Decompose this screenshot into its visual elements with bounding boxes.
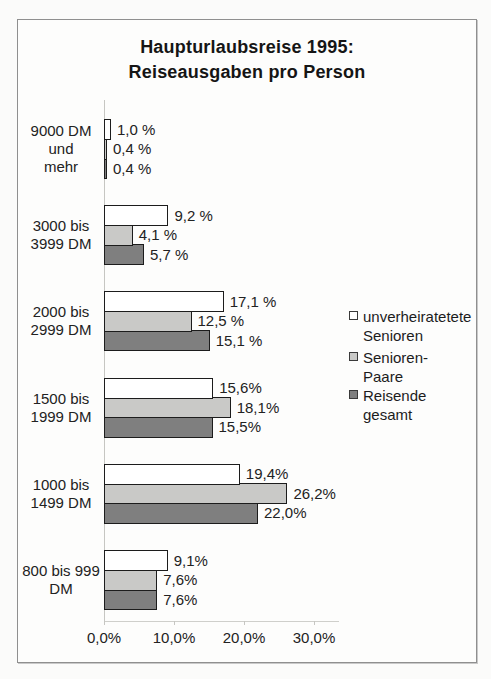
- category-label-line: 1000 bis: [20, 476, 102, 494]
- legend-item: unverheiratetete Senioren: [349, 307, 465, 345]
- bar-senioren-paare: [104, 483, 287, 504]
- bar-unverheiratete-senioren: [104, 464, 240, 485]
- x-axis-line: [104, 621, 339, 622]
- bar-reisende-gesamt: [104, 503, 258, 524]
- value-label: 19,4%: [246, 465, 289, 483]
- value-label: 18,1%: [237, 399, 280, 417]
- bar-reisende-gesamt: [104, 417, 213, 438]
- bar-unverheiratete-senioren: [104, 205, 168, 226]
- bar-senioren-paare: [104, 570, 157, 591]
- category-label: 1000 bis1499 DM: [20, 464, 102, 524]
- legend-item: Reisende gesamt: [349, 386, 465, 424]
- legend-item: Senioren-Paare: [349, 348, 465, 386]
- bar-unverheiratete-senioren: [104, 119, 111, 140]
- value-label: 15,6%: [219, 379, 262, 397]
- legend-label: Senioren-Paare: [363, 348, 465, 386]
- value-label: 5,7 %: [150, 246, 188, 264]
- legend-label: unverheiratetete Senioren: [363, 307, 465, 345]
- chart-frame: Haupturlaubsreise 1995: Reiseausgaben pr…: [17, 19, 477, 663]
- category-label-line: 2000 bis: [20, 303, 102, 321]
- value-label: 1,0 %: [117, 121, 155, 139]
- legend-swatch-icon: [349, 390, 358, 399]
- value-label: 0,4 %: [113, 160, 151, 178]
- category-label-line: 1499 DM: [20, 494, 102, 512]
- category-label-line: 2999 DM: [20, 321, 102, 339]
- bar-reisende-gesamt: [104, 589, 157, 610]
- category-label: 800 bis 999DM: [20, 550, 102, 610]
- bar-unverheiratete-senioren: [104, 550, 168, 571]
- category-label-line: 3000 bis: [20, 217, 102, 235]
- category-label-line: mehr: [20, 158, 102, 176]
- category-label-line: DM: [20, 580, 102, 598]
- x-tick-mark: [244, 621, 245, 625]
- category-label-line: 9000 DM und: [20, 122, 102, 158]
- category-label: 3000 bis3999 DM: [20, 205, 102, 265]
- category-label-line: 1999 DM: [20, 408, 102, 426]
- value-label: 12,5 %: [198, 312, 245, 330]
- value-label: 22,0%: [264, 504, 307, 522]
- bar-senioren-paare: [104, 139, 107, 160]
- value-label: 17,1 %: [230, 293, 277, 311]
- x-tick-label: 10,0%: [142, 629, 206, 646]
- x-tick-mark: [104, 621, 105, 625]
- bar-senioren-paare: [104, 311, 192, 332]
- value-label: 9,2 %: [174, 207, 212, 225]
- value-label: 9,1%: [174, 552, 208, 570]
- value-label: 15,1 %: [216, 332, 263, 350]
- category-label-line: 1500 bis: [20, 390, 102, 408]
- legend-swatch-icon: [349, 352, 358, 361]
- bar-unverheiratete-senioren: [104, 378, 213, 399]
- legend-swatch-icon: [349, 311, 358, 320]
- bar-unverheiratete-senioren: [104, 291, 224, 312]
- legend-label: Reisende gesamt: [363, 386, 465, 424]
- value-label: 15,5%: [219, 418, 262, 436]
- value-label: 7,6%: [163, 571, 197, 589]
- bar-senioren-paare: [104, 225, 133, 246]
- bar-reisende-gesamt: [104, 330, 210, 351]
- value-label: 26,2%: [293, 485, 336, 503]
- category-label: 2000 bis2999 DM: [20, 291, 102, 351]
- value-label: 7,6%: [163, 591, 197, 609]
- bar-reisende-gesamt: [104, 244, 144, 265]
- x-tick-label: 0,0%: [72, 629, 136, 646]
- x-tick-label: 20,0%: [212, 629, 276, 646]
- category-label: 1500 bis1999 DM: [20, 378, 102, 438]
- value-label: 4,1 %: [139, 226, 177, 244]
- x-tick-mark: [314, 621, 315, 625]
- x-tick-mark: [174, 621, 175, 625]
- bar-senioren-paare: [104, 397, 231, 418]
- category-label-line: 800 bis 999: [20, 562, 102, 580]
- category-label-line: 3999 DM: [20, 235, 102, 253]
- x-tick-label: 30,0%: [282, 629, 346, 646]
- category-label: 9000 DM undmehr: [20, 119, 102, 179]
- value-label: 0,4 %: [113, 140, 151, 158]
- bar-reisende-gesamt: [104, 158, 107, 179]
